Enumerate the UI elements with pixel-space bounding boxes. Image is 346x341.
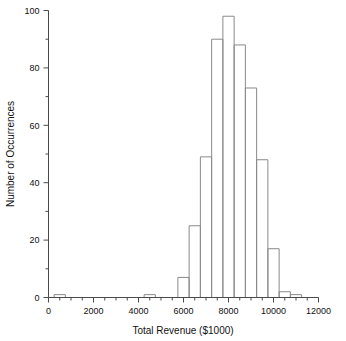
y-axis-tick-label: 60	[29, 121, 39, 131]
x-axis-tick-label: 2000	[83, 306, 103, 316]
x-axis-tick-label: 8000	[218, 306, 238, 316]
x-axis-tick-label: 12000	[306, 306, 331, 316]
histogram-figure: 020004000600080001000012000 020406080100…	[0, 0, 346, 341]
x-axis-tick-label: 10000	[261, 306, 286, 316]
y-axis-tick-label: 80	[29, 63, 39, 73]
x-axis-tick-label: 4000	[128, 306, 148, 316]
chart-background	[0, 0, 346, 341]
y-axis-tick-label: 20	[29, 235, 39, 245]
y-axis-tick-label: 40	[29, 178, 39, 188]
y-axis-tick-label: 0	[34, 293, 39, 303]
y-axis-tick-label: 100	[24, 6, 39, 16]
x-axis-tick-label: 6000	[173, 306, 193, 316]
x-axis-title: Total Revenue ($1000)	[132, 325, 233, 336]
y-axis-title: Number of Occurrences	[5, 101, 16, 207]
chart-canvas: 020004000600080001000012000 020406080100…	[0, 0, 346, 341]
x-axis-tick-label: 0	[46, 306, 51, 316]
